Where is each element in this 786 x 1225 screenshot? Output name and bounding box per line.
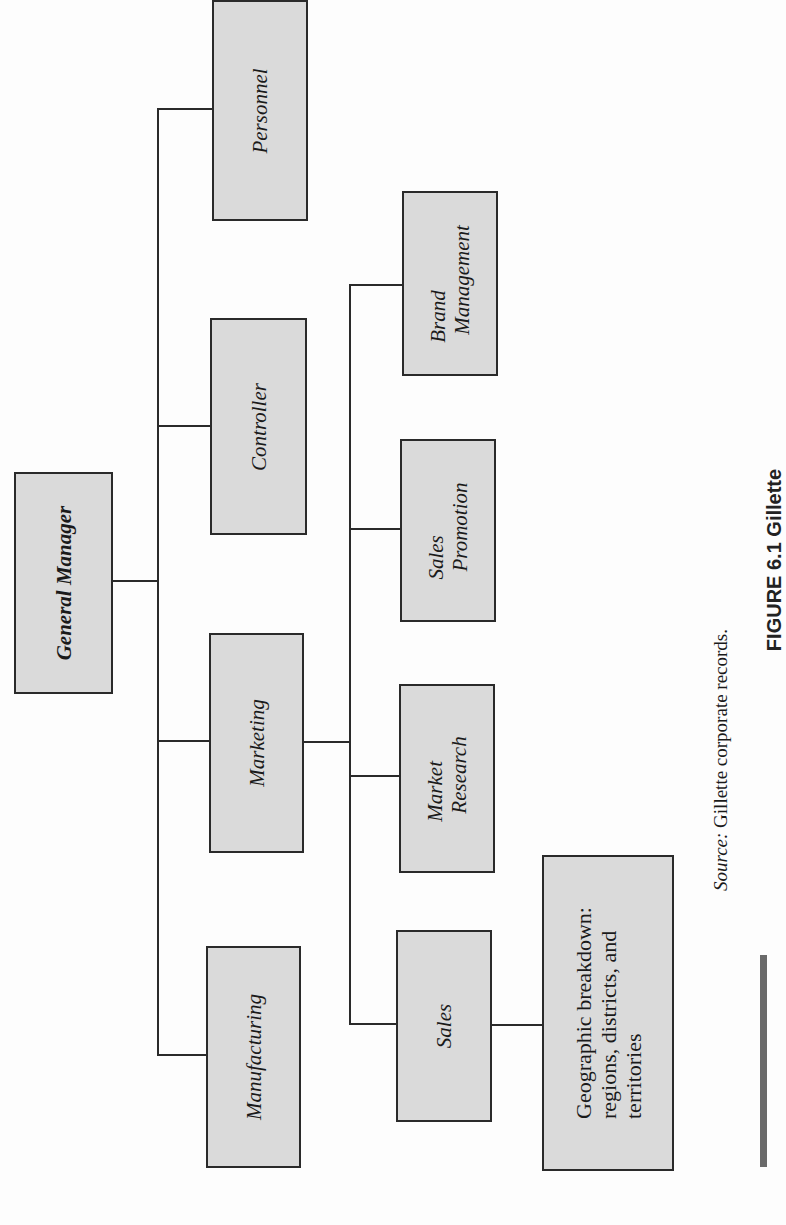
source-note: Source: Gillette corporate records. xyxy=(710,629,732,891)
box-personnel: Personnel xyxy=(212,0,308,221)
label-market-research: Market Research xyxy=(423,736,471,821)
box-market-research: Market Research xyxy=(399,684,495,873)
label-market-research-line2: Research xyxy=(447,736,471,821)
source-prefix: Source: xyxy=(710,833,731,891)
label-brand-line2: Management xyxy=(450,225,474,343)
connector-marketing xyxy=(157,740,210,742)
figure-caption: FIGURE 6.1 Gillette xyxy=(763,469,786,651)
connector-brand-management xyxy=(349,284,403,286)
label-sales-promo-line1: Sales xyxy=(424,535,448,579)
box-general-manager: General Manager xyxy=(14,472,113,694)
label-manufacturing: Manufacturing xyxy=(242,994,266,1120)
trunk-vertical xyxy=(157,108,159,1056)
connector-manufacturing xyxy=(157,1054,207,1056)
label-sales-promo-line2: Promotion xyxy=(448,482,472,579)
box-sales: Sales xyxy=(396,930,492,1122)
label-market-research-line1: Market xyxy=(423,761,447,822)
connector-marketing-branch xyxy=(303,741,351,743)
caption-bar xyxy=(760,955,767,1167)
connector-market-research xyxy=(349,775,400,777)
connector-geographic xyxy=(492,1024,543,1026)
box-brand-management: Brand Management xyxy=(402,191,498,376)
connector-controller xyxy=(157,425,211,427)
box-manufacturing: Manufacturing xyxy=(206,946,301,1168)
label-controller: Controller xyxy=(247,383,271,471)
source-text: Gillette corporate records. xyxy=(710,629,731,833)
box-controller: Controller xyxy=(210,318,307,535)
label-sales-promotion: Sales Promotion xyxy=(424,482,472,579)
label-geographic-breakdown: Geographic breakdown: regions, districts… xyxy=(571,907,646,1119)
connector-personnel xyxy=(157,108,212,110)
label-geo-line1: Geographic breakdown: xyxy=(571,907,596,1119)
label-geo-line3: territories xyxy=(621,1033,646,1119)
label-brand-line1: Brand xyxy=(426,290,450,343)
label-geo-line2: regions, districts, and xyxy=(596,931,621,1119)
connector-gm-trunk xyxy=(112,580,158,582)
connector-sales-promotion xyxy=(349,528,401,530)
box-sales-promotion: Sales Promotion xyxy=(400,439,496,622)
label-brand-management: Brand Management xyxy=(426,225,474,343)
label-general-manager: General Manager xyxy=(52,506,76,661)
connector-sales xyxy=(349,1023,397,1025)
label-sales: Sales xyxy=(432,1004,456,1048)
box-marketing: Marketing xyxy=(209,633,304,853)
label-marketing: Marketing xyxy=(245,699,269,786)
box-geographic-breakdown: Geographic breakdown: regions, districts… xyxy=(542,855,674,1171)
label-personnel: Personnel xyxy=(248,68,272,153)
marketing-branch-vertical xyxy=(349,284,351,1025)
